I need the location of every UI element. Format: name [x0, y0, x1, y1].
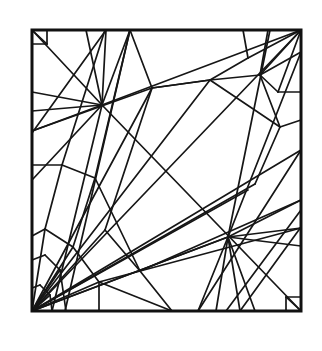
crease-line — [152, 80, 210, 88]
crease-line — [228, 237, 255, 311]
crease-lines — [32, 30, 301, 311]
diagram-svg — [0, 0, 322, 351]
crease-line — [62, 30, 105, 165]
crease-line — [243, 30, 248, 58]
crease-line — [286, 297, 301, 311]
crease-line — [45, 165, 62, 229]
crease-line — [260, 75, 280, 127]
crease-line — [130, 30, 152, 88]
crease-line — [32, 229, 45, 236]
crease-line — [32, 255, 45, 260]
crease-line — [102, 105, 301, 311]
crease-line — [228, 228, 301, 237]
crease-line — [280, 120, 301, 127]
crease-line — [32, 105, 102, 180]
crease-line — [210, 80, 280, 127]
crease-line — [86, 30, 102, 105]
crease-line — [32, 30, 47, 44]
crease-line — [228, 30, 270, 237]
crease-line — [102, 30, 301, 105]
crease-line — [260, 52, 301, 75]
crease-line — [62, 165, 95, 178]
crease-pattern-diagram — [0, 0, 322, 351]
